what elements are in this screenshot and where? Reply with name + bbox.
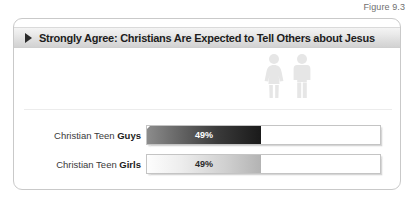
bar-label-guys-prefix: Christian Teen [54, 130, 117, 141]
bar-track-girls: 49% [146, 154, 381, 174]
bar-label-guys: Christian Teen Guys [14, 130, 141, 141]
male-figure-icon [291, 53, 313, 99]
bar-fill-guys: 49% [147, 126, 261, 144]
female-figure-icon [263, 53, 285, 99]
people-icon-area [14, 49, 400, 109]
section-divider [24, 109, 392, 110]
bar-label-girls-emphasis: Girls [119, 159, 141, 170]
bar-label-girls-prefix: Christian Teen [56, 159, 119, 170]
figure-card: Strongly Agree: Christians Are Expected … [13, 18, 401, 190]
bar-value-girls: 49% [195, 159, 213, 169]
bar-label-guys-emphasis: Guys [117, 130, 141, 141]
bar-track-guys: 49% [146, 125, 381, 145]
chart-header-bar: Strongly Agree: Christians Are Expected … [14, 27, 400, 48]
triangle-right-icon [25, 33, 32, 43]
figure-label: Figure 9.3 [363, 2, 405, 12]
chart-title: Strongly Agree: Christians Are Expected … [39, 32, 375, 44]
bar-fill-girls: 49% [147, 155, 261, 173]
bar-row-girls: Christian Teen Girls 49% [14, 153, 400, 175]
bar-label-girls: Christian Teen Girls [14, 159, 141, 170]
bar-row-guys: Christian Teen Guys 49% [14, 124, 400, 146]
bar-value-guys: 49% [195, 130, 213, 140]
